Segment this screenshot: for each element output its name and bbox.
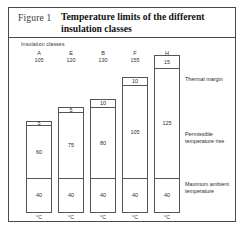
figure-title-bar: Figure 1 Temperature limits of the diffe… xyxy=(9,8,235,38)
unit-label-b: °C xyxy=(90,214,116,220)
legend-thermal-margin: Thermal margin xyxy=(185,76,237,83)
segment-thermal-margin: 10 xyxy=(90,99,116,108)
insulation-classes-caption: Insulation classes xyxy=(21,41,65,47)
segment-value: 40 xyxy=(100,192,106,198)
segment-value: 105 xyxy=(131,129,140,135)
segment-value: 15 xyxy=(164,59,170,65)
class-header-e: E120 xyxy=(54,50,88,64)
legend-maximum-ambient-temperature: Maximum ambient temperature xyxy=(185,181,237,195)
segment-permissible-rise: 125 xyxy=(154,68,180,178)
segment-value: 40 xyxy=(68,192,74,198)
segment-value: 80 xyxy=(100,140,106,146)
unit-label-a: °C xyxy=(26,214,52,220)
segment-value: 40 xyxy=(36,192,42,198)
segment-permissible-rise: 80 xyxy=(90,107,116,177)
bar-b: 108040 xyxy=(90,99,116,213)
segment-max-ambient: 40 xyxy=(90,178,116,213)
bar-a: 56040 xyxy=(26,121,52,213)
class-name: F xyxy=(118,50,152,57)
segment-thermal-margin: 10 xyxy=(122,77,148,86)
segment-value: 10 xyxy=(132,78,138,84)
segment-value: 40 xyxy=(132,192,138,198)
unit-label-f: °C xyxy=(122,214,148,220)
class-header-a: A105 xyxy=(22,50,56,64)
segment-permissible-rise: 105 xyxy=(122,85,148,177)
segment-max-ambient: 40 xyxy=(58,178,84,213)
unit-label-e: °C xyxy=(58,214,84,220)
bar-e: 57540 xyxy=(58,107,84,213)
class-name: A xyxy=(22,50,56,57)
segment-thermal-margin: 15 xyxy=(154,55,180,68)
figure-frame: Figure 1 Temperature limits of the diffe… xyxy=(8,7,236,222)
segment-max-ambient: 40 xyxy=(122,178,148,213)
bar-f: 1010540 xyxy=(122,77,148,213)
class-limit: 130 xyxy=(86,57,120,64)
legend-permissible-temperature-rise: Permissible temperature rise xyxy=(185,131,237,145)
segment-value: 10 xyxy=(100,100,106,106)
segment-permissible-rise: 60 xyxy=(26,125,52,178)
segment-value: 125 xyxy=(163,120,172,126)
segment-value: 60 xyxy=(36,149,42,155)
segment-value: 40 xyxy=(164,192,170,198)
unit-label-h: °C xyxy=(154,214,180,220)
figure-number-label: Figure 1 xyxy=(18,13,52,23)
class-limit: 105 xyxy=(22,57,56,64)
class-header-f: F155 xyxy=(118,50,152,64)
segment-permissible-rise: 75 xyxy=(58,112,84,178)
class-header-b: B130 xyxy=(86,50,120,64)
bar-h: 1512540 xyxy=(154,55,180,213)
class-limit: 155 xyxy=(118,57,152,64)
segment-max-ambient: 40 xyxy=(154,178,180,213)
class-limit: 120 xyxy=(54,57,88,64)
segment-max-ambient: 40 xyxy=(26,178,52,213)
class-name: B xyxy=(86,50,120,57)
segment-value: 75 xyxy=(68,142,74,148)
figure-title: Temperature limits of the different insu… xyxy=(61,11,229,34)
class-name: E xyxy=(54,50,88,57)
